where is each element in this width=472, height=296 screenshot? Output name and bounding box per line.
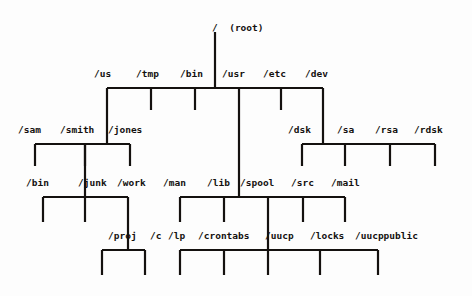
node-bin: /bin	[180, 68, 203, 79]
node-man: /man	[163, 177, 186, 188]
node-rsa: /rsa	[375, 124, 398, 135]
filesystem-tree-diagram: / (root) /us /tmp /bin /usr /etc /dev /s…	[0, 0, 472, 296]
tree-edges-layer	[0, 0, 472, 296]
node-jones-bin: /bin	[26, 177, 49, 188]
node-dsk: /dsk	[288, 124, 311, 135]
node-sa: /sa	[337, 124, 354, 135]
node-jones: /jones	[108, 124, 142, 135]
node-lp: /lp	[168, 230, 185, 241]
node-c: /c	[150, 230, 161, 241]
node-dev: /dev	[305, 68, 328, 79]
node-src: /src	[291, 177, 314, 188]
node-usr: /usr	[222, 68, 245, 79]
node-spool: /spool	[240, 177, 274, 188]
node-us: /us	[94, 68, 111, 79]
node-smith: /smith	[60, 124, 94, 135]
node-uucp: /uucp	[265, 230, 294, 241]
node-uucppublic: /uucppublic	[355, 230, 418, 241]
node-proj: /proj	[108, 230, 137, 241]
node-crontabs: /crontabs	[198, 230, 249, 241]
node-locks: /locks	[310, 230, 344, 241]
node-tmp: /tmp	[136, 68, 159, 79]
node-sam: /sam	[18, 124, 41, 135]
node-rdsk: /rdsk	[414, 124, 443, 135]
node-etc: /etc	[263, 68, 286, 79]
node-work: /work	[117, 177, 146, 188]
node-junk: /junk	[78, 177, 107, 188]
node-mail: /mail	[331, 177, 360, 188]
node-lib: /lib	[207, 177, 230, 188]
node-root: / (root)	[212, 22, 263, 33]
